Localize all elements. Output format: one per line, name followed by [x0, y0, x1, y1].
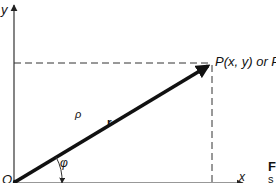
- caption-fragment-line1: F: [268, 160, 276, 173]
- x-axis-label: x: [239, 171, 245, 183]
- phi-label: φ: [60, 157, 68, 169]
- caption-fragment-line2: s: [268, 174, 274, 183]
- point-p-label: P(x, y) or P(ρ, φ): [215, 55, 276, 68]
- y-axis-label: y: [1, 3, 8, 16]
- coordinate-diagram: [0, 0, 276, 183]
- vector-r-label: r: [107, 117, 112, 129]
- origin-label: O: [2, 173, 12, 183]
- rho-label: ρ: [75, 109, 81, 120]
